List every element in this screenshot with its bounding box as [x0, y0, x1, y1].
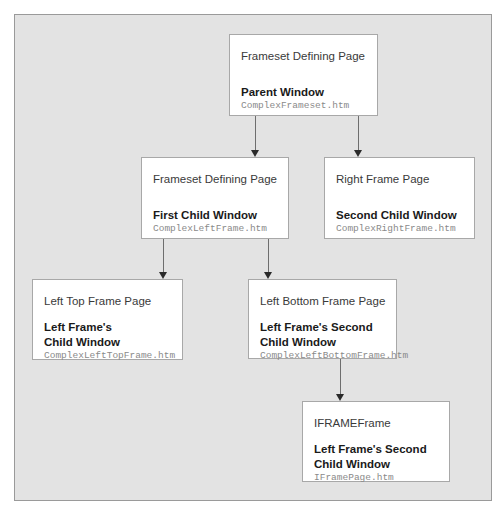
node-first-child-window: Frameset Defining Page First Child Windo… [141, 157, 289, 239]
window-name: First Child Window [153, 208, 278, 223]
arrowhead-icon [251, 150, 259, 157]
page-label: Left Bottom Frame Page [260, 294, 386, 308]
window-name: Left Frame's Second Child Window [314, 442, 439, 472]
window-name: Second Child Window [336, 208, 464, 223]
edge-parent-to-first-child [255, 115, 256, 151]
arrowhead-icon [336, 394, 344, 401]
edge-first-child-to-left-top [163, 238, 164, 273]
page-label: Frameset Defining Page [153, 172, 278, 186]
file-name: ComplexRightFrame.htm [336, 223, 464, 235]
edge-parent-to-right-frame [358, 115, 359, 151]
node-iframe-frame: IFRAMEFrame Left Frame's Second Child Wi… [302, 401, 450, 482]
window-name: Parent Window [241, 85, 367, 100]
page-label: Frameset Defining Page [241, 49, 367, 63]
file-name: ComplexFrameset.htm [241, 100, 367, 112]
edge-first-child-to-left-bottom [268, 238, 269, 273]
arrowhead-icon [264, 272, 272, 279]
file-name: ComplexLeftBottomFrame.htm [260, 350, 386, 362]
arrowhead-icon [159, 272, 167, 279]
window-name: Left Frame's Second Child Window [260, 320, 386, 350]
file-name: ComplexLeftFrame.htm [153, 223, 278, 235]
file-name: IFramePage.htm [314, 472, 439, 484]
file-name: ComplexLeftTopFrame.htm [44, 350, 172, 362]
edge-left-bottom-to-iframe [340, 358, 341, 395]
node-parent-window: Frameset Defining Page Parent Window Com… [229, 34, 378, 116]
node-left-bottom-frame: Left Bottom Frame Page Left Frame's Seco… [248, 279, 397, 359]
page-label: Right Frame Page [336, 172, 464, 186]
window-name: Left Frame's Child Window [44, 320, 172, 350]
page-label: IFRAMEFrame [314, 416, 439, 430]
page-label: Left Top Frame Page [44, 294, 172, 308]
node-left-top-frame: Left Top Frame Page Left Frame's Child W… [32, 279, 183, 360]
node-second-child-window: Right Frame Page Second Child Window Com… [324, 157, 475, 239]
arrowhead-icon [354, 150, 362, 157]
